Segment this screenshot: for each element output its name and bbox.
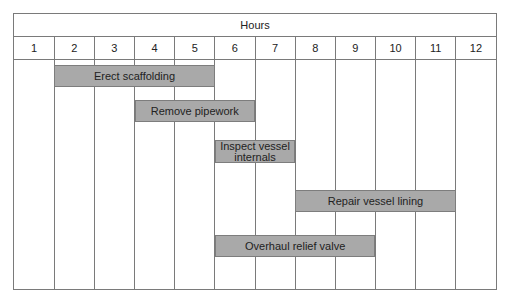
hour-column-header: 3 bbox=[94, 37, 134, 59]
hour-column-header: 11 bbox=[416, 37, 456, 59]
hour-column-header: 9 bbox=[335, 37, 375, 59]
task-bar: Erect scaffolding bbox=[54, 65, 215, 87]
hour-column-header: 4 bbox=[135, 37, 175, 59]
hour-column-header: 7 bbox=[255, 37, 295, 59]
hour-column-header: 12 bbox=[456, 37, 496, 59]
gantt-chart: Hours 123456789101112 Erect scaffoldingR… bbox=[13, 13, 497, 290]
task-bar: Repair vessel lining bbox=[295, 190, 456, 212]
hour-column-header: 5 bbox=[175, 37, 215, 59]
task-bar: Remove pipework bbox=[135, 100, 256, 122]
hour-column-header: 6 bbox=[215, 37, 255, 59]
grid-line bbox=[455, 37, 456, 289]
task-bar: Overhaul relief valve bbox=[215, 235, 376, 257]
hour-column-header: 10 bbox=[376, 37, 416, 59]
chart-title: Hours bbox=[14, 14, 496, 37]
hour-column-header: 2 bbox=[54, 37, 94, 59]
hour-column-header: 8 bbox=[295, 37, 335, 59]
task-bar: Inspect vessel internals bbox=[215, 140, 295, 163]
hour-column-header: 1 bbox=[14, 37, 54, 59]
grid-line bbox=[415, 37, 416, 289]
